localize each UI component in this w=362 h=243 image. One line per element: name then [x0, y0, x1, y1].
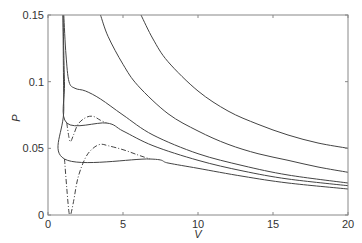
y-axis-label: P [10, 114, 22, 122]
plot-lines [58, 15, 348, 216]
isotherm-above-critical-line [101, 15, 349, 172]
y-tick-label: 0 [38, 209, 44, 221]
x-tick-label: 15 [267, 218, 279, 230]
y-tick-label: 0.05 [23, 142, 44, 154]
isotherm-subcritical-2-line [58, 15, 348, 189]
x-tick-label: 20 [342, 218, 354, 230]
isotherm-subcritical-1-line [63, 15, 348, 186]
axis-ticks: 0510152000.050.10.15 [23, 9, 355, 230]
isotherm-highest-line [141, 15, 348, 148]
isotherm-subcritical-2-vdw-line [65, 144, 151, 216]
x-tick-label: 0 [45, 218, 51, 230]
y-tick-label: 0.15 [23, 9, 44, 21]
pv-isotherm-chart: 0510152000.050.10.15 V P [0, 0, 362, 243]
x-tick-label: 5 [120, 218, 126, 230]
isotherm-subcritical-1-vdw-line [67, 116, 107, 142]
y-tick-label: 0.1 [29, 76, 44, 88]
isotherm-critical-line [64, 15, 348, 183]
